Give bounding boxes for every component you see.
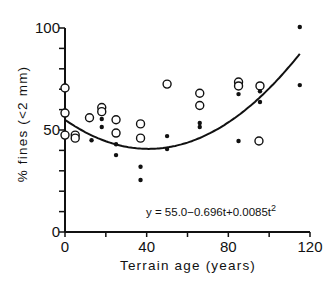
filled-dot-point [258, 100, 262, 104]
filled-dot-point [236, 92, 240, 96]
fit-equation: y = 55.0−0.696t+0.0085t2 [146, 203, 276, 218]
filled-dot-point [298, 25, 302, 29]
open-circle-point [86, 114, 94, 122]
fit-curve [65, 54, 300, 149]
filled-dot-point [114, 153, 118, 157]
scatter-chart: 05010004080120 Terrain age (years) % fin… [0, 0, 335, 290]
open-circle-point [235, 82, 243, 90]
fit-equation-superscript: 2 [271, 203, 276, 213]
open-circle-point [256, 82, 264, 90]
open-circle-point [61, 131, 69, 139]
filled-dot-point [89, 138, 93, 142]
open-circle-point [137, 120, 145, 128]
open-circle-point [255, 137, 263, 145]
filled-dot-point [258, 89, 262, 93]
filled-dot-point [165, 134, 169, 138]
x-tick-label: 40 [138, 238, 155, 255]
open-circle-point [137, 134, 145, 142]
open-circle-point [163, 80, 171, 88]
filled-dot-point [298, 83, 302, 87]
open-circle-point [196, 102, 204, 110]
open-circle-point [112, 116, 120, 124]
open-circle-point [196, 89, 204, 97]
filled-dot-point [236, 139, 240, 143]
x-tick-label: 120 [297, 238, 322, 255]
filled-dot-point [165, 147, 169, 151]
filled-dot-point [100, 125, 104, 129]
y-tick-label: 50 [43, 121, 60, 138]
data-points [61, 25, 302, 182]
filled-dot-point [138, 165, 142, 169]
open-circle-point [61, 84, 69, 92]
filled-dot-point [100, 117, 104, 121]
filled-dot-point [198, 125, 202, 129]
filled-dot-point [138, 178, 142, 182]
filled-dot-point [198, 121, 202, 125]
y-tick-label: 0 [52, 223, 60, 240]
x-tick-label: 0 [61, 238, 69, 255]
open-circle-point [112, 129, 120, 137]
x-tick-label: 80 [220, 238, 237, 255]
fit-equation-main: y = 55.0−0.696t+0.0085t [146, 206, 272, 218]
filled-dot-point [114, 142, 118, 146]
open-circle-point [71, 134, 79, 142]
y-tick-label: 100 [35, 19, 60, 36]
open-circle-point [98, 108, 106, 116]
open-circle-point [61, 109, 69, 117]
y-axis-title: % fines (<2 mm) [15, 66, 30, 183]
x-axis-title: Terrain age (years) [120, 258, 256, 273]
